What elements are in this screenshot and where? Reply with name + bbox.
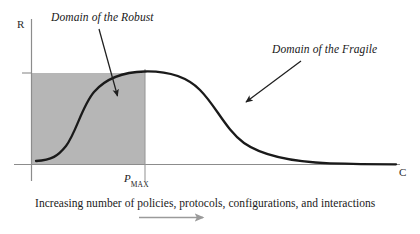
x-tick-subscript: MAX — [131, 180, 149, 189]
fragile-annotation-arrow — [246, 61, 301, 102]
annotation-domain-of-the-fragile: Domain of the Fragile — [272, 44, 377, 56]
figure-container: R C Domain of the Robust Domain of the F… — [0, 0, 420, 234]
y-axis-label: R — [17, 19, 24, 30]
shaded-robust-region — [32, 73, 146, 164]
x-axis-label: C — [399, 167, 406, 178]
x-tick-variable: P — [124, 172, 131, 184]
x-tick-label-pmax: PMAX — [124, 173, 149, 187]
annotation-domain-of-the-robust: Domain of the Robust — [51, 12, 154, 24]
figure-caption: Increasing number of policies, protocols… — [35, 198, 375, 210]
